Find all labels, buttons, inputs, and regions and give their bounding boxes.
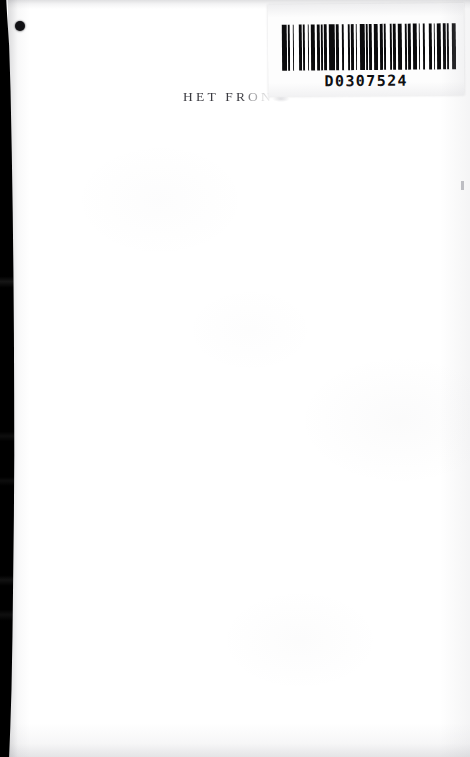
scanned-page: HET FRON D0307524 [0,0,470,757]
right-edge-shadow [440,0,470,757]
barcode-number: D0307524 [268,71,464,91]
paper-surface [0,0,470,757]
barcode-space [456,23,458,69]
barcode-bars [282,23,458,71]
stray-edge-mark [461,181,464,190]
bottom-edge-shadow [0,723,470,757]
ink-punch-dot [15,21,25,31]
paper-smudge [272,96,290,102]
barcode-sticker: D0307524 [268,3,465,97]
page-title: HET FRON [183,89,274,105]
